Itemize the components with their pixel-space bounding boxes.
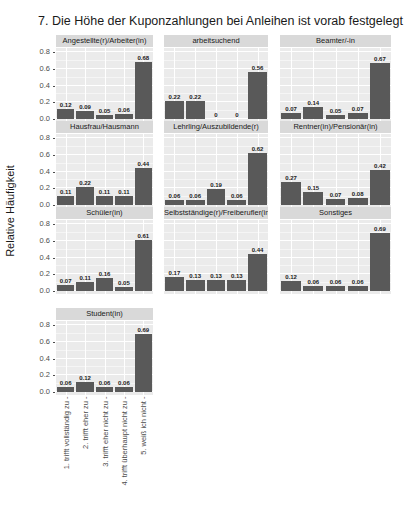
bar-value-label: 0.06 <box>301 279 325 285</box>
y-tick-mark <box>53 359 55 360</box>
bar-value-label: 0.62 <box>246 146 270 152</box>
facet-strip-label: Beamter/-in <box>280 35 391 47</box>
bar-value-label: 0.05 <box>112 280 136 286</box>
bar-value-label: 0.13 <box>225 273 249 279</box>
x-tick-label: 4. trifft überhaupt nicht zu - <box>119 397 128 487</box>
x-tick-label: 2. trifft eher zu - <box>81 397 90 487</box>
facet-strip-label: Angestellte(r)/Arbeiter(in) <box>56 35 153 47</box>
x-tick-label: 5. weiß ich nicht - <box>139 397 148 487</box>
bar-value-label: 0.06 <box>112 107 136 113</box>
bar <box>57 109 74 119</box>
bar <box>370 170 390 205</box>
y-tick-label: 0.0 <box>26 200 50 209</box>
y-tick-label: 0.6 <box>26 236 50 245</box>
bar-value-label: 0.19 <box>204 182 228 188</box>
y-tick-mark <box>53 69 55 70</box>
y-tick-mark <box>53 102 55 103</box>
gridline <box>216 48 217 122</box>
facet-strip-label: Selbstständige(r)/Freiberufler(in) <box>164 207 268 219</box>
bar-value-label: 0.14 <box>301 100 325 106</box>
bar-value-label: 0.06 <box>324 279 348 285</box>
facet-panel: Schüler(in)0.070.110.160.050.61 <box>56 207 153 293</box>
y-tick-mark <box>53 205 55 206</box>
facet-panel: Student(in)0.060.120.060.060.69 <box>56 308 153 394</box>
bar <box>186 280 205 291</box>
bar <box>281 182 301 205</box>
y-tick-label: 0.4 <box>26 253 50 262</box>
bar <box>303 192 323 205</box>
bar <box>248 153 267 205</box>
plot-area: 0.270.150.070.080.42 <box>280 134 391 208</box>
chart-title: 7. Die Höhe der Kuponzahlungen bei Anlei… <box>0 14 407 28</box>
y-tick-label: 0.8 <box>26 47 50 56</box>
y-tick-mark <box>53 155 55 156</box>
bar-value-label: 0.06 <box>225 193 249 199</box>
bar <box>135 62 152 119</box>
facet-panel: Rentner(in)/Pensionär(in)0.270.150.070.0… <box>280 121 391 207</box>
bar <box>76 282 93 291</box>
bar <box>115 287 132 291</box>
facet-panel: Beamter/-in0.070.140.050.070.67 <box>280 35 391 121</box>
y-tick-mark <box>53 375 55 376</box>
y-tick-label: 0.2 <box>26 183 50 192</box>
bar-value-label: 0.69 <box>131 327 155 333</box>
plot-area: 0.120.090.050.060.68 <box>56 48 153 122</box>
plot-area: 0.220.22000.56 <box>164 48 268 122</box>
y-tick-label: 0.0 <box>26 387 50 396</box>
bar <box>165 200 184 205</box>
bar <box>326 199 346 205</box>
bar <box>96 387 113 392</box>
y-tick-label: 0.6 <box>26 64 50 73</box>
bar <box>115 387 132 392</box>
facet-panel: Selbstständige(r)/Freiberufler(in)0.170.… <box>164 207 268 293</box>
plot-area: 0.170.130.130.130.44 <box>164 220 268 294</box>
y-tick-mark <box>53 342 55 343</box>
bar-value-label: 0.06 <box>346 279 370 285</box>
facet-strip-label: arbeitsuchend <box>164 35 268 47</box>
y-tick-mark <box>53 325 55 326</box>
bar-value-label: 0 <box>225 112 249 118</box>
bar <box>370 63 390 119</box>
bar <box>135 168 152 205</box>
bar-value-label: 0.07 <box>324 192 348 198</box>
bar <box>115 196 132 205</box>
y-tick-label: 0.0 <box>26 286 50 295</box>
bar-value-label: 0.07 <box>346 106 370 112</box>
bar-value-label: 0.12 <box>279 274 303 280</box>
bar <box>186 101 205 119</box>
bar <box>348 198 368 205</box>
y-tick-mark <box>53 172 55 173</box>
y-tick-label: 0.8 <box>26 133 50 142</box>
y-tick-label: 0.4 <box>26 81 50 90</box>
bar-value-label: 0.05 <box>324 108 348 114</box>
bar <box>281 281 301 291</box>
bar-value-label: 0.56 <box>246 65 270 71</box>
x-tick-label: 3. trifft eher nicht zu - <box>100 397 109 487</box>
bar <box>348 113 368 119</box>
bar <box>370 233 390 291</box>
y-tick-mark <box>53 291 55 292</box>
y-tick-mark <box>53 119 55 120</box>
bar <box>57 285 74 291</box>
bar <box>248 254 267 291</box>
y-tick-label: 0.6 <box>26 337 50 346</box>
bar <box>76 187 93 205</box>
bar-value-label: 0.22 <box>73 180 97 186</box>
bar-value-label: 0.67 <box>368 56 392 62</box>
y-axis-label: Relative Häufigkeit <box>4 161 16 261</box>
bar <box>135 240 152 291</box>
bar-value-label: 0.15 <box>301 185 325 191</box>
y-tick-label: 0.6 <box>26 150 50 159</box>
bar-value-label: 0.68 <box>131 55 155 61</box>
bar <box>57 196 74 205</box>
bar-value-label: 0.27 <box>279 175 303 181</box>
bar-value-label: 0.07 <box>279 106 303 112</box>
y-tick-label: 0.2 <box>26 370 50 379</box>
bar <box>227 200 246 205</box>
y-tick-mark <box>53 52 55 53</box>
facet-panel: Hausfrau/Hausmann0.110.220.110.110.44 <box>56 121 153 207</box>
bar <box>76 382 93 392</box>
plot-area: 0.070.140.050.070.67 <box>280 48 391 122</box>
bar-value-label: 0.06 <box>112 380 136 386</box>
y-tick-mark <box>53 188 55 189</box>
